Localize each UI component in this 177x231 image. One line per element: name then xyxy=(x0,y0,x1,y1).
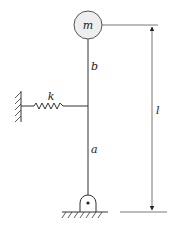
segment-a-label: a xyxy=(91,143,98,156)
mass: m xyxy=(74,11,102,39)
pivot-support xyxy=(62,195,108,218)
spring-label: k xyxy=(48,90,55,103)
length-dimension: l xyxy=(102,25,167,212)
segment-b-label: b xyxy=(91,60,98,73)
length-label: l xyxy=(156,104,160,117)
wall xyxy=(15,91,21,122)
mass-label: m xyxy=(83,19,93,32)
spring: k xyxy=(21,90,88,109)
pendulum-spring-diagram: m b a k l xyxy=(0,0,177,231)
